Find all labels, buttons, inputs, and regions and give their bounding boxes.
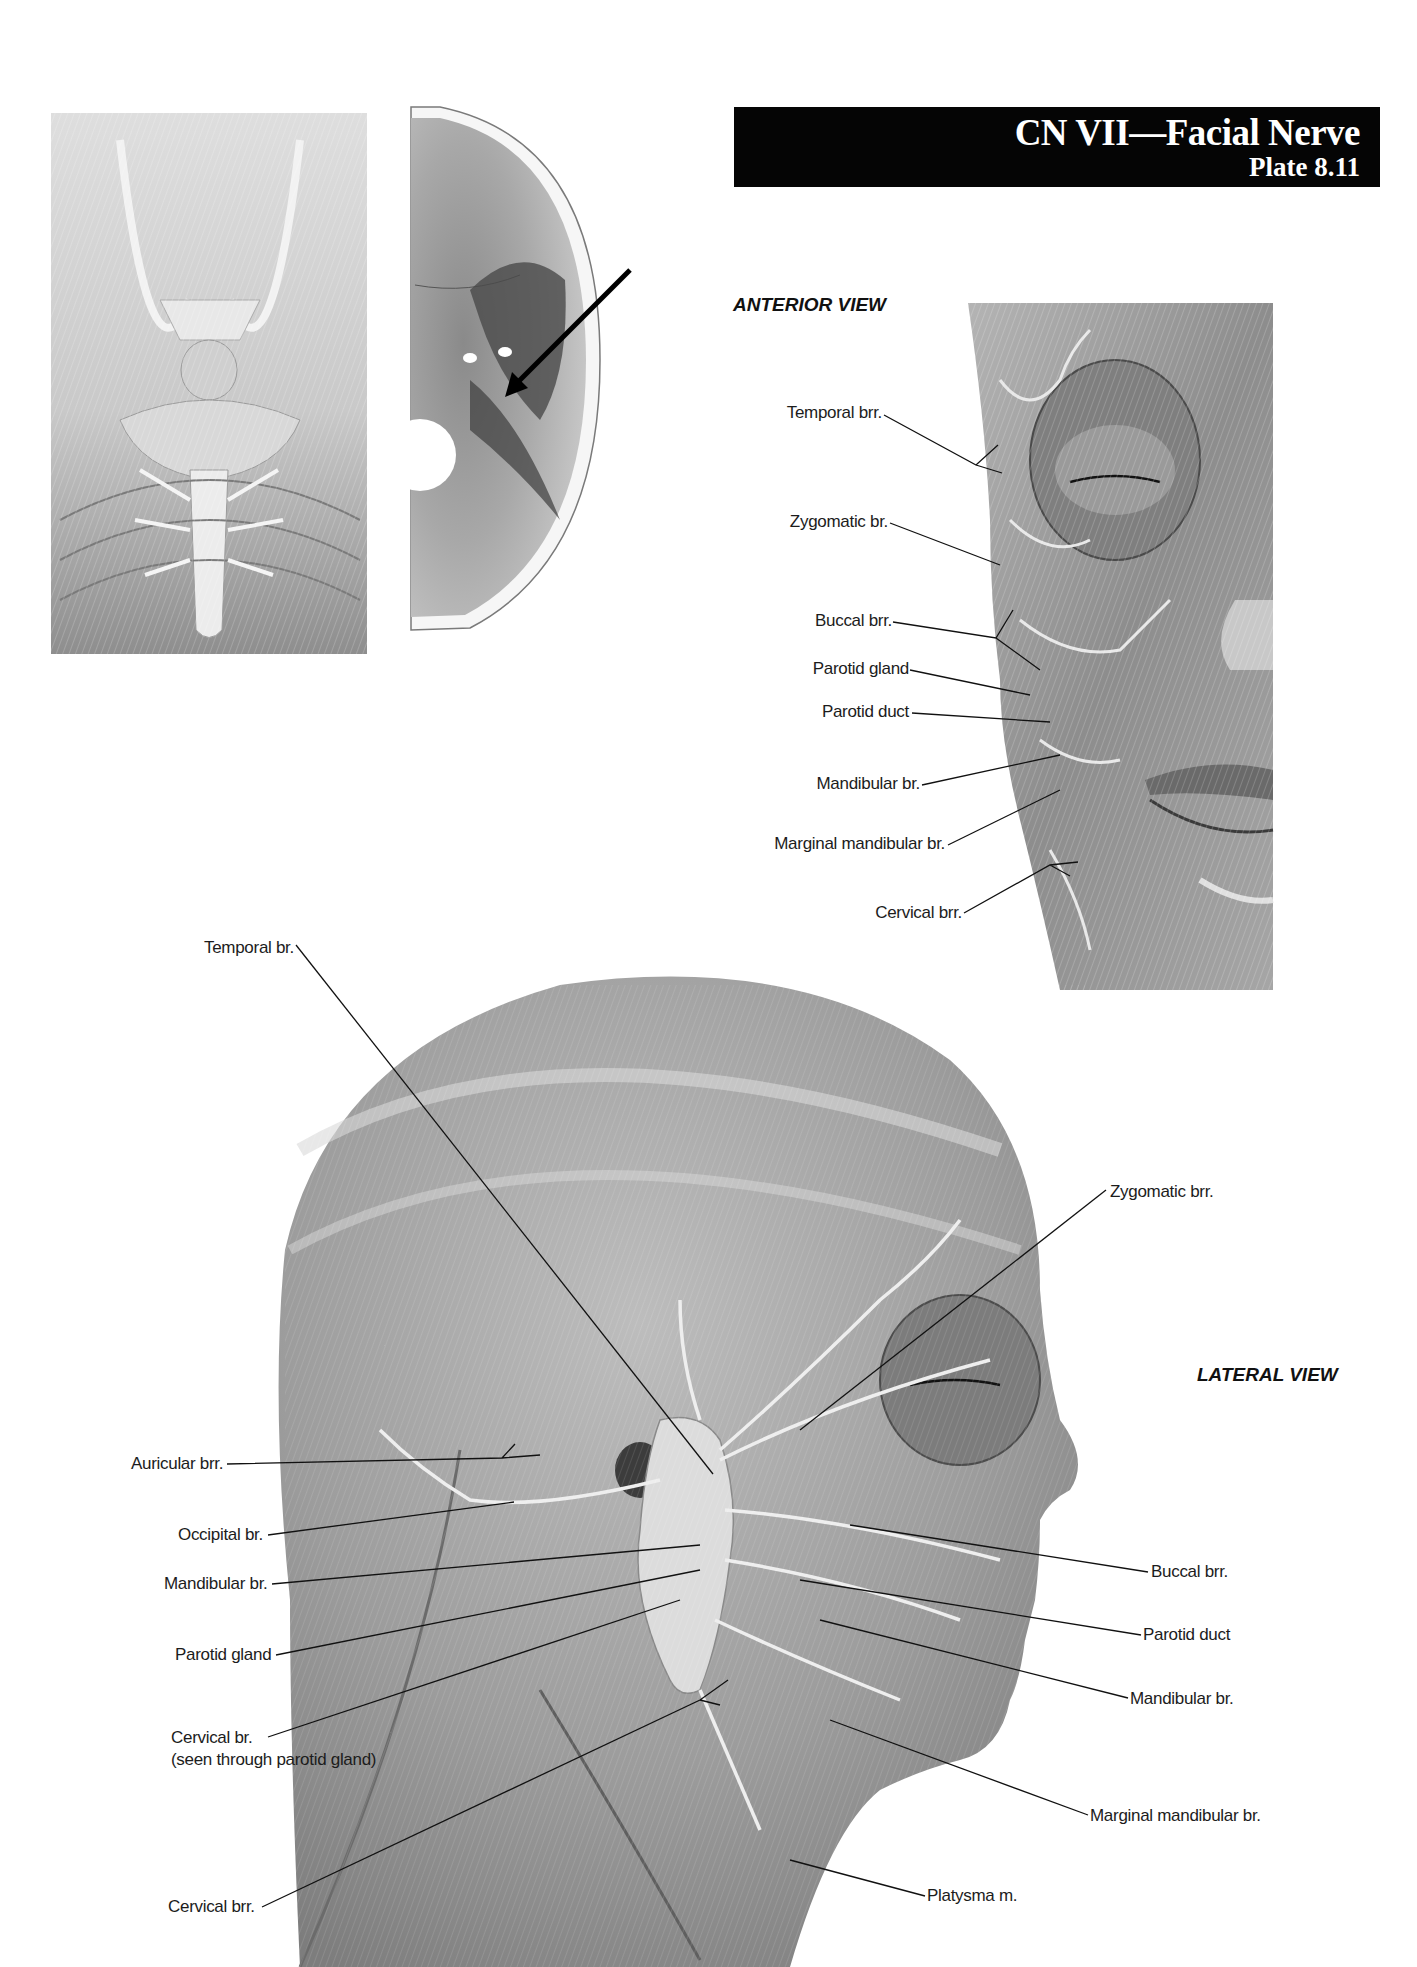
anterior-view-title: ANTERIOR VIEW [733, 294, 886, 316]
lateral-label-cervical-br: Cervical br. [171, 1728, 252, 1748]
lateral-label-marginal-mandibular-br: Marginal mandibular br. [1090, 1806, 1261, 1826]
anterior-label-parotid-duct: Parotid duct [822, 702, 909, 722]
plate-title: CN VII—Facial Nerve [1015, 111, 1360, 154]
anterior-label-cervical-brr: Cervical brr. [875, 903, 962, 923]
lateral-label-parotid-gland: Parotid gland [175, 1645, 271, 1665]
lateral-head-illustration [279, 977, 1085, 1967]
anterior-label-buccal-brr: Buccal brr. [815, 611, 892, 631]
plate-number: Plate 8.11 [1249, 152, 1360, 183]
cranial-base-illustration [384, 107, 600, 630]
lateral-label-mandibular-br: Mandibular br. [164, 1574, 268, 1594]
anterior-label-zygomatic-br: Zygomatic br. [790, 512, 888, 532]
lateral-label-buccal-brr: Buccal brr. [1151, 1562, 1228, 1582]
lateral-label-temporal-br: Temporal br. [204, 938, 294, 958]
brain-base-illustration [51, 113, 367, 654]
lateral-label-platysma: Platysma m. [927, 1886, 1017, 1906]
anterior-label-marginal-mandibular-br: Marginal mandibular br. [774, 834, 945, 854]
plate-illustrations [0, 0, 1417, 1967]
lateral-label-cervical-br-note: (seen through parotid gland) [171, 1750, 376, 1770]
anterior-label-parotid-gland: Parotid gland [813, 659, 909, 679]
anterior-label-mandibular-br: Mandibular br. [816, 774, 920, 794]
anterior-face-illustration [968, 303, 1273, 990]
lateral-label-occipital-br: Occipital br. [178, 1525, 263, 1545]
lateral-label-cervical-brr: Cervical brr. [168, 1897, 255, 1917]
lateral-label-parotid-duct: Parotid duct [1143, 1625, 1230, 1645]
lateral-view-title: LATERAL VIEW [1197, 1364, 1338, 1386]
lateral-label-zygomatic-brr: Zygomatic brr. [1110, 1182, 1214, 1202]
lateral-label-mandibular-br: Mandibular br. [1130, 1689, 1234, 1709]
plate-title-bar: CN VII—Facial Nerve Plate 8.11 [734, 107, 1380, 187]
lateral-label-auricular-brr: Auricular brr. [131, 1454, 223, 1474]
anterior-label-temporal-brr: Temporal brr. [787, 403, 882, 423]
